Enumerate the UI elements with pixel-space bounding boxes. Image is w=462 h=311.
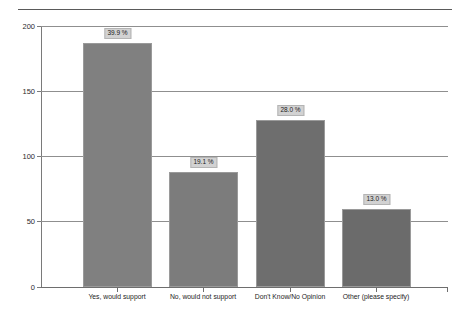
x-tick-mark-2 (203, 288, 204, 292)
bar-data-label: 13.0 % (363, 194, 390, 206)
category-label-no-would-not-support: No, would not support (170, 293, 236, 300)
bar-data-label: 28.0 % (277, 105, 304, 117)
plot-area: 39.9 % 19.1 % 28.0 % 13.0 % (41, 26, 448, 287)
bar-yes-would-support[interactable]: 39.9 % (83, 26, 152, 287)
x-tick-mark-1 (117, 288, 118, 292)
x-tick-mark-3 (290, 288, 291, 292)
y-tick-label-50: 50 (14, 218, 35, 226)
bar-dont-know-no-opinion[interactable]: 28.0 % (256, 26, 325, 287)
bar-data-label: 19.1 % (190, 157, 217, 169)
category-label-dont-know-no-opinion: Don't Know/No Opinion (255, 293, 325, 300)
bar-rect (342, 209, 411, 287)
bar-no-would-not-support[interactable]: 19.1 % (169, 26, 238, 287)
chart-page: 200 150 100 50 0 39.9 % 19.1 % (0, 0, 462, 311)
bar-rect (83, 43, 152, 287)
y-tick-label-100: 100 (14, 153, 35, 161)
x-tick-mark-end (447, 288, 448, 292)
bar-data-label: 39.9 % (104, 28, 131, 40)
category-label-other-please-specify: Other (please specify) (343, 293, 410, 300)
category-label-yes-would-support: Yes, would support (88, 293, 145, 300)
bar-rect (256, 120, 325, 287)
bar-chart: 200 150 100 50 0 39.9 % 19.1 % (0, 0, 462, 311)
bar-other-please-specify[interactable]: 13.0 % (342, 26, 411, 287)
bar-rect (169, 172, 238, 287)
x-tick-mark-4 (376, 288, 377, 292)
x-axis-line (41, 287, 448, 288)
y-tick-label-0: 0 (14, 284, 35, 292)
y-tick-label-150: 150 (14, 88, 35, 96)
y-tick-label-200: 200 (14, 23, 35, 31)
